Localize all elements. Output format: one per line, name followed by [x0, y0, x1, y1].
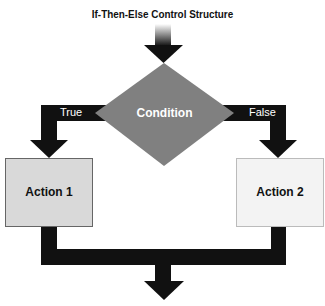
flowchart-canvas — [0, 0, 325, 306]
diagram-title: If-Then-Else Control Structure — [16, 8, 309, 20]
entry-arrow — [144, 24, 183, 63]
merge-arrow — [41, 226, 286, 300]
action2-label: Action 2 — [236, 185, 324, 199]
condition-label: Condition — [95, 106, 234, 120]
action1-label: Action 1 — [5, 185, 93, 199]
false-label: False — [249, 106, 276, 118]
true-label: True — [60, 106, 82, 118]
